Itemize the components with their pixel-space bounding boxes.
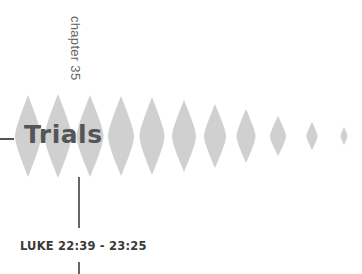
spindle-shape xyxy=(140,97,165,175)
title-dash xyxy=(0,138,14,140)
vertical-rule-top xyxy=(78,177,80,228)
spindle-shape xyxy=(307,122,318,150)
spindle-shape xyxy=(270,116,286,156)
vertical-rule-bottom xyxy=(78,262,80,274)
spindle-shape xyxy=(108,96,134,176)
chapter-title: Trials xyxy=(24,120,103,149)
spindle-shape xyxy=(341,127,348,145)
scripture-reference: LUKE 22:39 - 23:25 xyxy=(20,239,147,253)
spindle-shape xyxy=(172,100,196,172)
spindle-shape xyxy=(204,104,226,168)
spindle-shape xyxy=(237,109,256,163)
